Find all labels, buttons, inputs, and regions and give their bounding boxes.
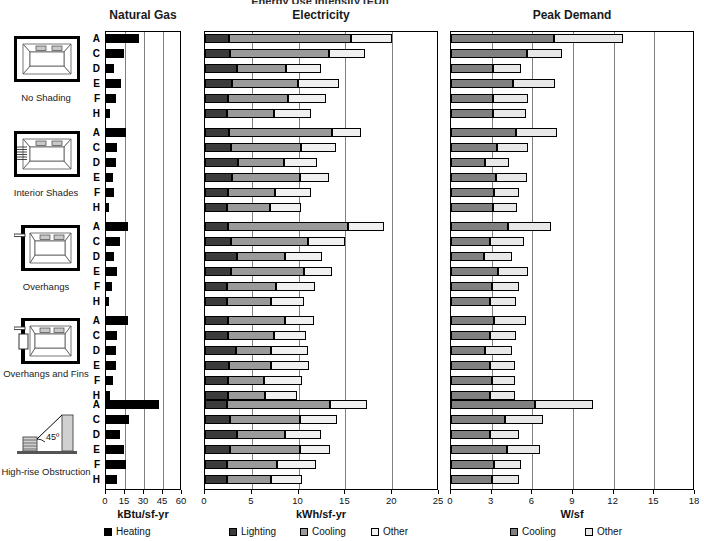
- figure-top-title: Energy Use Intensity (EUI): [150, 0, 490, 4]
- bar-segment: [205, 79, 232, 88]
- bar-segment: [106, 460, 126, 469]
- bar-segment: [451, 188, 494, 197]
- bar-segment: [493, 94, 528, 103]
- bar-segment: [485, 158, 509, 167]
- legend-label: Other: [383, 526, 408, 537]
- axis-tick-label: 60: [169, 495, 193, 506]
- bar-segment: [298, 79, 339, 88]
- legend-swatch-icon: [104, 528, 112, 536]
- row-letter-overhangs-and-fins-E: E: [86, 361, 100, 371]
- bar-segment: [205, 460, 227, 469]
- row-letter-no-shading-F: F: [86, 94, 100, 104]
- legend-item-peak-cooling: Cooling: [510, 526, 556, 537]
- group-caption-overhangs: Overhangs: [0, 281, 92, 292]
- legend-swatch-icon: [371, 528, 379, 536]
- bar-segment: [106, 203, 109, 212]
- bar-segment: [451, 331, 490, 340]
- bar-segment: [228, 94, 288, 103]
- gridline: [654, 32, 655, 489]
- bar-segment: [284, 158, 318, 167]
- bar-segment: [106, 282, 112, 291]
- axis-tick-label: 9: [560, 495, 584, 506]
- bar-segment: [451, 79, 513, 88]
- legend-swatch-icon: [510, 528, 518, 536]
- row-letter-overhangs-E: E: [86, 267, 100, 277]
- axis-tick: [438, 490, 439, 494]
- legend-label: Cooling: [522, 526, 556, 537]
- bar-segment: [507, 445, 541, 454]
- bar-segment: [494, 460, 521, 469]
- bar-segment: [205, 143, 231, 152]
- bar-segment: [236, 346, 271, 355]
- axis-tick: [298, 490, 299, 494]
- bar-segment: [231, 267, 304, 276]
- row-letter-overhangs-and-fins-A: A: [86, 316, 100, 326]
- bar-segment: [106, 34, 139, 43]
- bar-segment: [271, 475, 303, 484]
- bar-segment: [285, 316, 315, 325]
- bar-segment: [490, 331, 516, 340]
- bar-segment: [265, 391, 297, 400]
- legend-swatch-icon: [229, 528, 237, 536]
- axis-tick-label: 18: [682, 495, 704, 506]
- bar-segment: [106, 475, 117, 484]
- bar-segment: [451, 316, 494, 325]
- bar-segment: [490, 297, 516, 306]
- bar-segment: [205, 173, 232, 182]
- legend-swatch-icon: [585, 528, 593, 536]
- bar-segment: [205, 415, 230, 424]
- group-caption-high-rise-obstruction: High-rise Obstruction: [0, 466, 92, 477]
- bar-segment: [228, 188, 275, 197]
- group-caption-interior-shades: Interior Shades: [0, 187, 92, 198]
- bar-segment: [300, 173, 329, 182]
- bar-segment: [228, 316, 284, 325]
- bar-segment: [508, 222, 551, 231]
- bar-segment: [106, 445, 124, 454]
- plan-overhangs-icon: [14, 225, 80, 273]
- row-letter-overhangs-C: C: [86, 237, 100, 247]
- row-letter-no-shading-C: C: [86, 49, 100, 59]
- bar-segment: [451, 109, 493, 118]
- row-letter-no-shading-E: E: [86, 79, 100, 89]
- gridline: [144, 32, 145, 489]
- axis-tick-label: 15: [332, 495, 356, 506]
- gridline: [614, 32, 615, 489]
- bar-segment: [451, 237, 490, 246]
- row-letter-no-shading-H: H: [86, 109, 100, 119]
- bar-segment: [264, 376, 302, 385]
- axis-tick-label: 6: [519, 495, 543, 506]
- axis-tick: [181, 490, 182, 494]
- bar-segment: [106, 415, 129, 424]
- bar-segment: [285, 252, 322, 261]
- axis-tick: [204, 490, 205, 494]
- bar-segment: [492, 282, 519, 291]
- axis-tick: [124, 490, 125, 494]
- gridline: [392, 32, 393, 489]
- bar-segment: [330, 400, 367, 409]
- bar-segment: [493, 64, 521, 73]
- bar-segment: [205, 297, 227, 306]
- bar-segment: [451, 222, 508, 231]
- bar-segment: [490, 237, 524, 246]
- bar-segment: [288, 94, 325, 103]
- legend-label: Lighting: [241, 526, 276, 537]
- bar-segment: [485, 346, 512, 355]
- bar-segment: [205, 346, 236, 355]
- bar-segment: [229, 128, 332, 137]
- group-caption-no-shading: No Shading: [0, 92, 92, 103]
- bar-segment: [227, 282, 276, 291]
- bar-segment: [271, 346, 308, 355]
- bar-segment: [535, 400, 593, 409]
- bar-segment: [106, 143, 117, 152]
- bar-segment: [493, 109, 526, 118]
- bar-segment: [451, 445, 507, 454]
- legend-swatch-icon: [300, 528, 308, 536]
- bar-segment: [106, 173, 113, 182]
- row-letter-overhangs-A: A: [86, 222, 100, 232]
- bar-segment: [106, 252, 114, 261]
- bar-segment: [205, 430, 237, 439]
- axis-tick: [143, 490, 144, 494]
- row-letter-high-rise-obstruction-E: E: [86, 445, 100, 455]
- bar-segment: [451, 252, 484, 261]
- plot-area-peak: [450, 31, 694, 490]
